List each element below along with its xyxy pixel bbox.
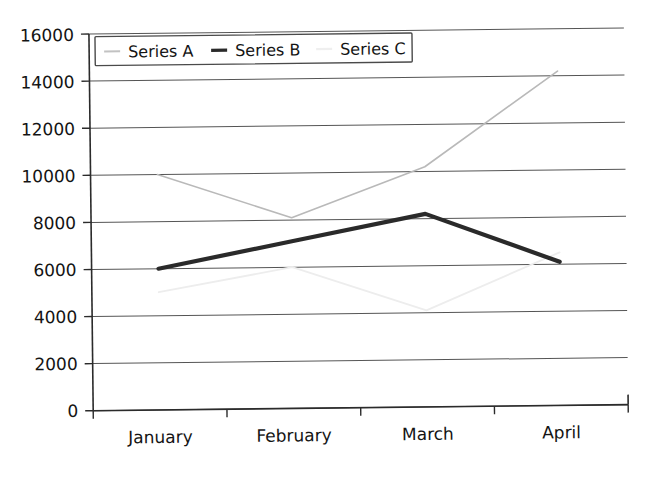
series-line-a: [156, 71, 559, 219]
line-chart: 0 2000 4000 6000 8000 10000 12000 14000 …: [0, 0, 655, 485]
x-tick-label: April: [542, 422, 581, 442]
y-tick-label: 14000: [20, 72, 74, 93]
x-tick-label: March: [402, 424, 454, 445]
x-axis-tick-labels: January February March April: [127, 422, 581, 447]
x-tick-label: January: [127, 427, 193, 448]
series-line-c: [158, 252, 560, 313]
legend-label-series-b: Series B: [235, 40, 300, 60]
legend-label-series-a: Series A: [128, 42, 194, 62]
gridlines: [89, 28, 628, 411]
chart-legend: Series A Series B Series C: [95, 33, 412, 66]
x-tick-label: February: [256, 425, 332, 446]
y-tick-label: 8000: [33, 213, 76, 233]
y-axis-tick-labels: 0 2000 4000 6000 8000 10000 12000 14000 …: [20, 25, 79, 422]
chart-canvas: 0 2000 4000 6000 8000 10000 12000 14000 …: [0, 0, 655, 485]
x-tick-marks: [93, 405, 628, 419]
y-tick-label: 2000: [34, 354, 77, 374]
y-tick-label: 12000: [21, 119, 75, 140]
series-lines: [156, 71, 560, 313]
y-tick-label: 6000: [33, 260, 76, 280]
y-tick-label: 16000: [20, 25, 74, 46]
y-tick-label: 0: [67, 401, 78, 421]
y-tick-label: 4000: [34, 307, 77, 327]
y-tick-label: 10000: [21, 166, 75, 187]
legend-label-series-c: Series C: [340, 39, 406, 59]
